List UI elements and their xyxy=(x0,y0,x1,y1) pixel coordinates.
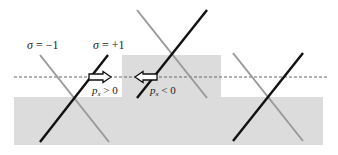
sigma-minus-label: σ = −1 xyxy=(27,38,58,52)
momentum-relation: > 0 xyxy=(101,84,119,96)
momentum-relation: < 0 xyxy=(159,84,177,96)
lower-band-region xyxy=(14,97,323,145)
px-positive-label: px > 0 xyxy=(91,84,118,98)
sigma-plus-label: σ = +1 xyxy=(93,38,124,52)
px-negative-label: px < 0 xyxy=(149,84,176,98)
sigma-value: = +1 xyxy=(99,38,125,52)
band-crossing-diagram: σ = −1 σ = +1 px > 0 px < 0 xyxy=(0,0,338,155)
sigma-value: = −1 xyxy=(33,38,59,52)
